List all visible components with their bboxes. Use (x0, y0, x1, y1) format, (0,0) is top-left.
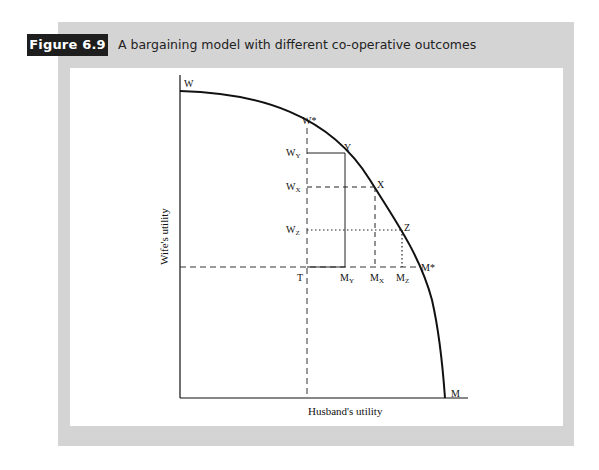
label-point-y: Y (344, 142, 351, 153)
label-w-x: WX (286, 181, 301, 194)
label-m-y: MY (340, 272, 354, 285)
label-m: M (451, 388, 460, 399)
x-axis-title: Husband's utility (308, 405, 383, 417)
label-m-x: MX (370, 272, 384, 285)
label-t: T (297, 272, 303, 283)
label-w: W (184, 78, 194, 89)
label-w-star: W* (302, 115, 316, 126)
label-m-z: MZ (396, 272, 409, 285)
label-point-x: X (377, 179, 385, 190)
utility-frontier-curve (180, 91, 445, 398)
bargaining-diagram: W W* WY WX WZ Y X Z T MY MX MZ M* M Husb… (0, 0, 599, 470)
label-w-z: WZ (286, 224, 300, 237)
label-w-y: WY (286, 147, 301, 160)
y-axis-title: Wife's utility (158, 208, 170, 265)
label-m-star: M* (421, 262, 435, 273)
label-point-z: Z (404, 222, 410, 233)
